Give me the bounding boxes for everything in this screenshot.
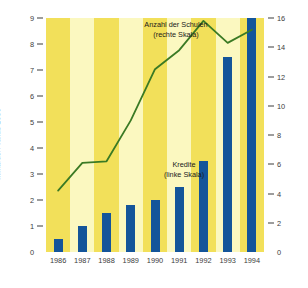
left-axis-tick-label: 6	[30, 92, 34, 101]
left-axis-tick-mark	[37, 174, 43, 175]
left-axis-tick-label: 7	[30, 66, 34, 75]
x-axis-tick-label: 1989	[123, 256, 139, 265]
x-axis-labels: 198619871988198919901991199219931994	[46, 256, 264, 270]
x-axis-tick-label: 1987	[74, 256, 90, 265]
line-annotation-line1: Anzahl der Schulen	[132, 20, 220, 30]
left-axis-tick-label: 0	[30, 248, 34, 257]
x-axis-tick-label: 1988	[98, 256, 114, 265]
left-axis-tick-mark	[37, 226, 43, 227]
x-axis-tick-label: 1993	[219, 256, 235, 265]
right-axis-tick-mark	[268, 164, 274, 165]
right-axis-tick-mark	[268, 105, 274, 106]
bar-annotation-line1: Kredite	[154, 160, 214, 170]
left-axis-label: Milliarden Takas 1986	[0, 84, 2, 204]
right-axis-tick-label: 14	[277, 43, 285, 52]
x-axis-tick-label: 1992	[195, 256, 211, 265]
right-axis-tick-label: 10	[277, 101, 285, 110]
left-axis-tick-label: 2	[30, 196, 34, 205]
line-annotation-line2: (rechte Skala)	[132, 30, 220, 40]
right-axis-tick-mark	[268, 135, 274, 136]
left-axis-tick-mark	[37, 200, 43, 201]
left-axis-tick-label: 4	[30, 144, 34, 153]
left-axis-tick-label: 3	[30, 170, 34, 179]
left-axis-tick-label: 5	[30, 118, 34, 127]
right-axis-tick-mark	[268, 18, 274, 19]
left-axis-tick-label: 9	[30, 14, 34, 23]
right-axis-tick-label: 2	[277, 218, 281, 227]
left-axis-tick-mark	[37, 44, 43, 45]
x-axis-tick-label: 1994	[244, 256, 260, 265]
right-axis-tick-label: 6	[277, 160, 281, 169]
left-axis-tick-mark	[37, 96, 43, 97]
right-axis-tick-label: 0	[277, 248, 281, 257]
bar-annotation-line2: (linke Skala)	[154, 170, 214, 180]
x-axis-tick-label: 1986	[50, 256, 66, 265]
x-axis-tick-label: 1990	[147, 256, 163, 265]
left-axis-tick-mark	[37, 70, 43, 71]
left-axis-tick-mark	[37, 18, 43, 19]
right-axis-tick-label: 4	[277, 189, 281, 198]
chart-figure: Milliarden Takas 1986 Anzahl der Schulen…	[0, 0, 308, 288]
left-axis-tick-label: 1	[30, 222, 34, 231]
left-axis-tick-mark	[37, 148, 43, 149]
line-series	[46, 18, 264, 252]
left-axis-ticks: 0123456789	[22, 18, 44, 252]
right-axis-tick-label: 12	[277, 72, 285, 81]
right-axis-tick-label: 16	[277, 14, 285, 23]
right-axis-tick-mark	[268, 47, 274, 48]
left-axis-tick-label: 8	[30, 40, 34, 49]
right-axis-tick-mark	[268, 193, 274, 194]
right-axis-tick-mark	[268, 76, 274, 77]
line-series-annotation: Anzahl der Schulen (rechte Skala)	[132, 20, 220, 39]
plot-area: Anzahl der Schulen (rechte Skala) Kredit…	[46, 18, 264, 252]
right-axis-tick-mark	[268, 222, 274, 223]
right-axis-tick-label: 8	[277, 131, 281, 140]
bar-series-annotation: Kredite (linke Skala)	[154, 160, 214, 179]
left-axis-tick-mark	[37, 122, 43, 123]
x-axis-tick-label: 1991	[171, 256, 187, 265]
right-axis-ticks: 0246810121416	[266, 18, 288, 252]
